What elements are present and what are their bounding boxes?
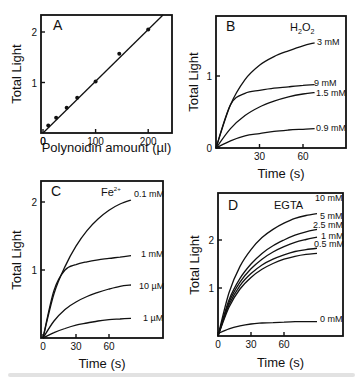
curve-label: 0 mM xyxy=(320,314,343,324)
curve-0-mm xyxy=(218,322,317,334)
y-tick-label: 1 xyxy=(206,71,212,82)
panel-label: D xyxy=(228,197,238,213)
curve-label: 10 mM xyxy=(315,193,343,203)
y-tick-label: 1 xyxy=(208,283,214,294)
data-point xyxy=(46,123,50,127)
panel-annotation: Fe2+ xyxy=(101,186,121,198)
x-tick-label: 60 xyxy=(103,341,115,352)
data-point xyxy=(146,27,150,31)
y-tick-label: 2 xyxy=(31,27,37,38)
panel-label: C xyxy=(51,183,61,199)
x-axis-label: Time (s) xyxy=(257,355,304,370)
y-axis-label: Total Light xyxy=(186,52,201,112)
curve-label: 9 mM xyxy=(314,78,337,88)
panel-annotation: EGTA xyxy=(274,199,304,211)
x-tick-label: 0 xyxy=(215,339,221,350)
y-axis-label: Total Light xyxy=(9,44,24,104)
x-axis-label: Polynoidin amount (µl) xyxy=(42,140,172,155)
curve-label: 1 µM xyxy=(143,313,163,323)
x-tick-label: 30 xyxy=(254,151,266,162)
x-tick-label: 0 xyxy=(40,341,46,352)
data-point xyxy=(65,106,69,110)
curve-10-mm xyxy=(218,214,317,336)
curve-label: 1 mM xyxy=(141,249,164,259)
y-axis-label: Total Light xyxy=(9,230,24,290)
curve-label: 2.5 mM xyxy=(313,220,343,230)
data-point xyxy=(75,96,79,100)
curve-label: 1.5 mM xyxy=(316,88,346,98)
x-tick-label: 30 xyxy=(70,341,82,352)
curve-10-m xyxy=(43,285,131,338)
x-tick-label: 60 xyxy=(278,339,290,350)
curve-label: 0.5 mM xyxy=(314,239,344,249)
panel-label: B xyxy=(226,18,235,34)
panel-annotation: H2O2 xyxy=(290,21,315,36)
caption-text-line xyxy=(8,373,355,377)
curve-label: 10 µM xyxy=(139,281,164,291)
figure-caption-blurred xyxy=(0,370,359,380)
panel-label: A xyxy=(53,17,63,33)
curve-1-5-mm xyxy=(216,93,315,148)
y-tick-label: 1 xyxy=(31,265,37,276)
y-tick-label: 0 xyxy=(206,143,212,154)
curve-0-9-mm xyxy=(216,129,315,148)
curve-label: 3 mM xyxy=(317,37,340,47)
data-point xyxy=(94,79,98,83)
x-axis-label: Time (s) xyxy=(78,356,125,371)
y-tick-label: 1 xyxy=(31,78,37,89)
figure: 0100200012Polynoidin amount (µl)Total Li… xyxy=(0,0,359,381)
y-tick-label: 2 xyxy=(31,197,37,208)
curve-label: 0.9 mM xyxy=(316,123,346,133)
curve-label: 0.1 mM xyxy=(134,189,164,199)
x-tick-label: 30 xyxy=(245,339,257,350)
panel-d: 0306012Time (s)Total LightDEGTA10 mM5 mM… xyxy=(187,193,344,370)
panel-b: 306001Time (s)Total LightBH2O23 mM9 mM1.… xyxy=(186,16,346,181)
panel-a: 0100200012Polynoidin amount (µl)Total Li… xyxy=(9,15,172,155)
panel-c: 0306012Time (s)Total LightCFe2+0.1 mM1 m… xyxy=(9,181,164,371)
x-tick-label: 60 xyxy=(297,151,309,162)
curve-1-m xyxy=(43,318,131,338)
figure-canvas: 0100200012Polynoidin amount (µl)Total Li… xyxy=(0,0,359,381)
data-point xyxy=(117,52,121,56)
y-tick-label: 2 xyxy=(208,235,214,246)
data-point xyxy=(54,116,58,120)
x-axis-label: Time (s) xyxy=(257,166,304,181)
y-axis-label: Total Light xyxy=(187,235,202,295)
